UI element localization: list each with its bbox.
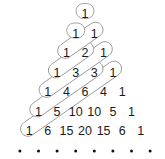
continuation-dot <box>111 150 114 153</box>
triangle-entry: 3 <box>72 66 79 80</box>
triangle-entry: 6 <box>119 124 126 138</box>
triangle-entry: 1 <box>128 105 135 119</box>
triangle-entry: 1 <box>119 85 126 99</box>
triangle-entry: 1 <box>54 66 61 80</box>
continuation-dot <box>130 150 133 153</box>
continuation-dots <box>18 150 165 153</box>
triangle-entry: 1 <box>109 66 116 80</box>
triangle-entry: 1 <box>26 124 33 138</box>
continuation-dot <box>74 150 77 153</box>
triangle-entry: 2 <box>82 46 89 60</box>
triangle-entry: 1 <box>44 85 51 99</box>
triangle-entry: 5 <box>109 105 116 119</box>
triangle-entry: 15 <box>59 124 73 138</box>
triangle-entry: 1 <box>63 46 70 60</box>
triangle-entry: 1 <box>100 46 107 60</box>
triangle-entry: 1 <box>82 7 89 21</box>
triangle-entry: 4 <box>100 85 107 99</box>
triangle-entry: 1 <box>35 105 42 119</box>
triangle-entry: 5 <box>54 105 61 119</box>
continuation-dot <box>37 150 40 153</box>
triangle-entry: 20 <box>78 124 92 138</box>
triangle-entry: 6 <box>82 85 89 99</box>
continuation-dot <box>56 150 59 153</box>
triangle-entry: 3 <box>91 66 98 80</box>
continuation-dot <box>18 150 21 153</box>
triangle-entry: 1 <box>91 27 98 41</box>
triangle-entry: 4 <box>63 85 70 99</box>
continuation-dot <box>93 150 96 153</box>
triangle-entry: 1 <box>72 27 79 41</box>
triangle-entry: 1 <box>137 124 144 138</box>
triangle-entry: 6 <box>44 124 51 138</box>
triangle-entry: 10 <box>87 105 101 119</box>
continuation-dot <box>149 150 152 153</box>
pascal-triangle-diagram: 111121133114641151010511615201561 <box>0 0 165 159</box>
triangle-entry: 10 <box>69 105 83 119</box>
triangle-entry: 15 <box>97 124 111 138</box>
